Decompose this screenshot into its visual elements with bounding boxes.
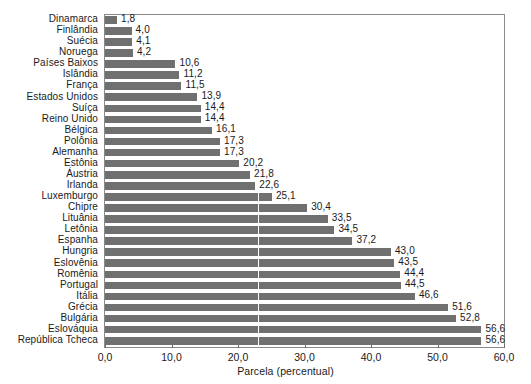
category-label: Letônia bbox=[64, 223, 98, 234]
bar[interactable] bbox=[105, 315, 456, 323]
bar[interactable] bbox=[105, 248, 391, 256]
bar[interactable] bbox=[105, 16, 117, 24]
category-label: Lituânia bbox=[62, 212, 98, 223]
bar[interactable] bbox=[105, 337, 481, 345]
category-label: Dinamarca bbox=[49, 13, 98, 24]
bar[interactable] bbox=[105, 105, 201, 113]
bar[interactable] bbox=[105, 282, 401, 290]
bar[interactable] bbox=[105, 160, 239, 168]
bar-value-label: 33,5 bbox=[332, 212, 352, 223]
bar-value-label: 1,8 bbox=[121, 13, 135, 24]
bar-row: 51,6 bbox=[105, 303, 504, 314]
bar-row: 14,4 bbox=[105, 115, 504, 126]
bar-row: 43,0 bbox=[105, 247, 504, 258]
bar[interactable] bbox=[105, 182, 255, 190]
bar-row: 17,3 bbox=[105, 148, 504, 159]
bar-row: 25,1 bbox=[105, 192, 504, 203]
x-tick-label: 40,0 bbox=[361, 351, 381, 363]
x-tick-label: 60,0 bbox=[494, 351, 514, 363]
bar-value-label: 30,4 bbox=[311, 201, 331, 212]
bar-row: 17,3 bbox=[105, 137, 504, 148]
bar[interactable] bbox=[105, 71, 179, 79]
bar-value-label: 56,6 bbox=[485, 334, 505, 345]
category-label: Islândia bbox=[63, 68, 98, 79]
bar[interactable] bbox=[105, 38, 132, 46]
bar-value-label: 43,5 bbox=[398, 256, 418, 267]
x-tick-mark bbox=[238, 344, 239, 348]
bar-value-label: 4,0 bbox=[136, 24, 150, 35]
bar[interactable] bbox=[105, 127, 212, 135]
bar-value-label: 22,6 bbox=[259, 179, 279, 190]
category-axis-labels: DinamarcaFinlândiaSuéciaNoruegaPaíses Ba… bbox=[0, 14, 100, 348]
category-label: Grécia bbox=[68, 301, 98, 312]
chart-page: DinamarcaFinlândiaSuéciaNoruegaPaíses Ba… bbox=[0, 0, 531, 384]
bar[interactable] bbox=[105, 116, 201, 124]
bar[interactable] bbox=[105, 149, 220, 157]
bar-row: 46,6 bbox=[105, 292, 504, 303]
category-label: Bélgica bbox=[65, 124, 99, 135]
bar-row: 11,2 bbox=[105, 70, 504, 81]
category-label: Espanha bbox=[58, 234, 98, 245]
x-tick-label: 10,0 bbox=[161, 351, 181, 363]
category-label: Itália bbox=[76, 290, 98, 301]
bar-row: 52,8 bbox=[105, 314, 504, 325]
bar-value-label: 16,1 bbox=[216, 123, 236, 134]
bar-row: 11,5 bbox=[105, 81, 504, 92]
category-label: França bbox=[66, 79, 98, 90]
x-axis: 0,010,020,030,040,050,060,0 bbox=[104, 348, 505, 364]
category-label: Estados Unidos bbox=[27, 91, 98, 102]
bar-value-label: 44,5 bbox=[405, 278, 425, 289]
bar-row: 56,6 bbox=[105, 325, 504, 336]
x-axis-title: Parcela (percentual) bbox=[0, 365, 531, 377]
bar[interactable] bbox=[105, 193, 272, 201]
bar-row: 34,5 bbox=[105, 225, 504, 236]
bar[interactable] bbox=[105, 237, 352, 245]
bar[interactable] bbox=[105, 138, 220, 146]
bar-row: 37,2 bbox=[105, 236, 504, 247]
bar-row: 44,4 bbox=[105, 270, 504, 281]
bar[interactable] bbox=[105, 215, 328, 223]
bar-row: 16,1 bbox=[105, 126, 504, 137]
bar[interactable] bbox=[105, 226, 334, 234]
bar[interactable] bbox=[105, 93, 197, 101]
category-label: Finlândia bbox=[57, 24, 98, 35]
bar[interactable] bbox=[105, 27, 132, 35]
bar[interactable] bbox=[105, 49, 133, 57]
bar-value-label: 43,0 bbox=[395, 245, 415, 256]
x-tick-mark bbox=[371, 344, 372, 348]
bar[interactable] bbox=[105, 304, 448, 312]
x-tick-mark bbox=[172, 344, 173, 348]
bar[interactable] bbox=[105, 293, 415, 301]
bar-row: 20,2 bbox=[105, 159, 504, 170]
bar-row: 4,2 bbox=[105, 48, 504, 59]
x-tick-mark bbox=[305, 344, 306, 348]
category-label: Luxemburgo bbox=[41, 190, 98, 201]
x-tick-label: 20,0 bbox=[228, 351, 248, 363]
bar-value-label: 21,8 bbox=[254, 168, 274, 179]
bars-container: 1,84,04,14,210,611,211,513,914,414,416,1… bbox=[105, 15, 504, 347]
bar-value-label: 25,1 bbox=[276, 190, 296, 201]
bar-value-label: 10,6 bbox=[179, 57, 199, 68]
bar-value-label: 52,8 bbox=[460, 312, 480, 323]
bar[interactable] bbox=[105, 171, 250, 179]
plot-area: 1,84,04,14,210,611,211,513,914,414,416,1… bbox=[104, 14, 505, 348]
bar[interactable] bbox=[105, 204, 307, 212]
bar[interactable] bbox=[105, 60, 175, 68]
x-tick-label: 0,0 bbox=[98, 351, 113, 363]
bar[interactable] bbox=[105, 326, 481, 334]
bar-row: 30,4 bbox=[105, 203, 504, 214]
bar-value-label: 51,6 bbox=[452, 301, 472, 312]
bar-value-label: 13,9 bbox=[201, 90, 221, 101]
category-label: Romênia bbox=[57, 268, 98, 279]
bar-row: 21,8 bbox=[105, 170, 504, 181]
bar-value-label: 56,6 bbox=[485, 323, 505, 334]
bar-value-label: 11,2 bbox=[183, 68, 202, 79]
category-label: Chipre bbox=[68, 201, 98, 212]
category-label: Áustria bbox=[66, 168, 98, 179]
category-label: Países Baixos bbox=[33, 57, 98, 68]
category-label: Reino Unido bbox=[42, 113, 98, 124]
bar[interactable] bbox=[105, 271, 400, 279]
category-label: Alemanha bbox=[52, 146, 98, 157]
bar[interactable] bbox=[105, 82, 181, 90]
bar[interactable] bbox=[105, 259, 394, 267]
